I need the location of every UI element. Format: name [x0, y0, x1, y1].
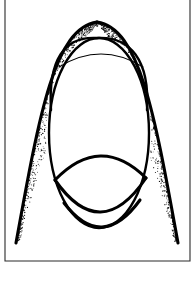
figure-background — [0, 0, 196, 282]
figure-container: Pointed arch and ovoid line illustration — [0, 0, 196, 282]
figure-illustration — [0, 0, 196, 282]
